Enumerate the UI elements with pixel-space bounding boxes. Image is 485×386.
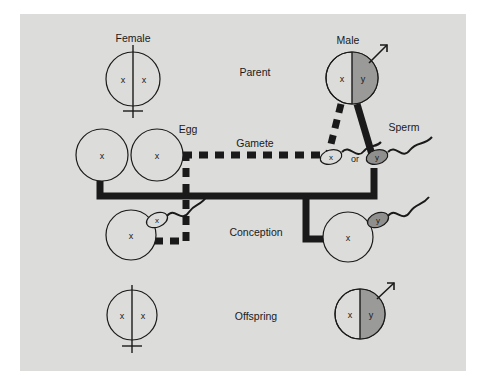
sperm-y-allele: y	[375, 153, 379, 162]
female-parent-group: x x Female	[106, 32, 160, 118]
male-parent-group: x y Male	[326, 34, 387, 104]
solid-to-conception	[306, 196, 325, 239]
egg-label: Egg	[179, 123, 198, 135]
row-label-parent: Parent	[240, 66, 271, 78]
conception-male-sperm-allele: y	[376, 216, 380, 225]
egg-right-group: x	[131, 129, 183, 181]
female-parent-right-allele: x	[142, 75, 147, 85]
figure-page: x x Female x y Male Paren	[0, 0, 485, 386]
offspring-male-right-allele: y	[369, 310, 374, 320]
female-parent-left-allele: x	[121, 75, 126, 85]
conception-male-group: x y	[323, 197, 429, 262]
offspring-male-left-allele: x	[348, 310, 353, 320]
conception-male-sperm-tail	[388, 197, 429, 216]
male-parent-label: Male	[337, 34, 360, 46]
offspring-female-left-allele: x	[120, 311, 125, 321]
sperm-label: Sperm	[389, 121, 420, 133]
row-label-offspring: Offspring	[235, 310, 278, 322]
genetics-diagram: x x Female x y Male Paren	[0, 0, 485, 386]
offspring-mars-arrow-shaft	[377, 283, 394, 299]
dashed-male-to-sperm	[329, 104, 341, 152]
sperm-y-group: y	[364, 137, 432, 167]
gamete-or-label: or	[351, 154, 359, 164]
conception-female-group: x x	[106, 196, 207, 260]
egg-left-allele: x	[100, 151, 105, 161]
sperm-y-tail	[388, 137, 432, 154]
male-parent-right-allele: y	[361, 74, 366, 84]
row-label-gamete: Gamete	[236, 137, 274, 149]
row-label-conception: Conception	[229, 226, 282, 238]
offspring-female-group: x x	[107, 285, 157, 353]
male-parent-left-allele: x	[340, 74, 345, 84]
sperm-x-allele: x	[329, 153, 333, 162]
egg-left-group: x	[76, 129, 128, 181]
conception-female-egg-allele: x	[129, 231, 134, 241]
female-parent-label: Female	[115, 32, 150, 44]
offspring-female-right-allele: x	[141, 311, 146, 321]
mars-arrow-shaft	[369, 45, 387, 63]
egg-right-allele: x	[155, 151, 160, 161]
offspring-male-group: x y	[335, 283, 394, 339]
conception-male-egg-allele: x	[346, 233, 351, 243]
conception-female-sperm-allele: x	[155, 216, 159, 225]
